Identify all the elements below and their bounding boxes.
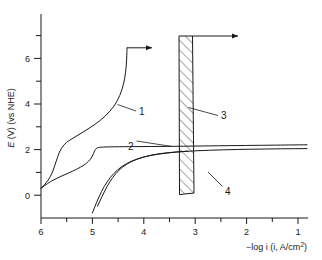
y-tick-label-0: 0 [25,191,30,201]
x-axis-ticks: 6 5 4 3 2 1 [38,218,300,237]
y-axis-ticks: 0 2 4 6 [25,36,41,201]
curve-4b-path [98,151,188,206]
transpassive-band [179,36,194,195]
y-tick-label-4: 4 [25,99,30,109]
curve-label-1: 1 [139,106,145,117]
x-tick-label-6: 6 [38,227,43,237]
x-tick-label-5: 5 [90,227,95,237]
figure-container: 0 2 4 6 6 5 4 3 2 1 [0,0,322,260]
leader-line-2 [137,141,172,146]
y-axis-title: E (V) (vs NHE) [6,88,16,148]
y-axis-title-rest: (V) (vs NHE) [6,88,16,142]
leader-line-4 [208,172,223,187]
x-tick-label-4: 4 [141,227,146,237]
curve-2-path [41,145,307,189]
y-tick-label-6: 6 [25,54,30,64]
x-axis-title: −log i (i, A/cm2) [246,241,307,252]
curve-label-3: 3 [221,110,227,121]
y-tick-label-2: 2 [25,145,30,155]
axis-titles-group: E (V) (vs NHE) −log i (i, A/cm2) [6,88,307,252]
curves-group [41,48,307,213]
x-axis-title-main: −log i (i, A/cm [246,242,300,252]
leader-line-1 [118,105,137,112]
curve-1-path [41,48,127,189]
polarization-diagram: 0 2 4 6 6 5 4 3 2 1 [0,0,322,260]
curve-label-2: 2 [128,141,134,152]
x-tick-label-1: 1 [295,227,300,237]
x-tick-label-2: 2 [244,227,249,237]
axes-group [41,14,308,218]
curve-4-path [92,149,307,213]
x-tick-label-3: 3 [193,227,198,237]
hatched-region-3 [179,36,194,195]
curve-label-4: 4 [225,186,231,197]
x-axis-title-tail: ) [304,242,307,252]
